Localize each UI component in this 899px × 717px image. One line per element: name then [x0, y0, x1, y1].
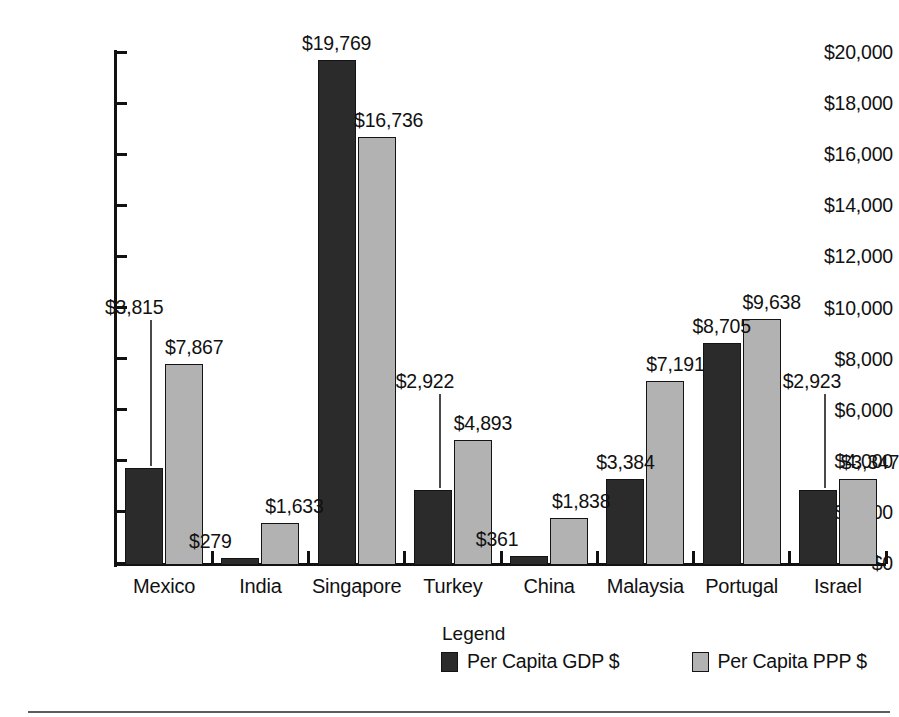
footer-divider: [28, 711, 890, 713]
legend-item-gdp[interactable]: Per Capita GDP $: [441, 650, 620, 673]
value-label-india-gdp: $279: [189, 530, 232, 553]
bar-china-ppp: [550, 518, 588, 565]
bar-malaysia-gdp: [606, 479, 644, 565]
value-label-india-ppp: $1,633: [265, 495, 323, 518]
value-label-turkey-ppp: $4,893: [454, 412, 512, 435]
bar-israel-ppp: [839, 479, 877, 565]
value-label-mexico-gdp: $3,815: [105, 296, 163, 319]
bar-china-gdp: [510, 556, 548, 565]
value-label-israel-gdp: $2,923: [783, 370, 841, 393]
bar-turkey-gdp: [414, 490, 452, 565]
value-label-malaysia-gdp: $3,384: [596, 451, 654, 474]
legend-swatch-icon: [441, 652, 458, 672]
bar-mexico-gdp: [125, 468, 163, 565]
value-label-malaysia-ppp: $7,191: [646, 353, 704, 376]
value-label-portugal-ppp: $9,638: [742, 291, 800, 314]
value-label-china-gdp: $361: [476, 528, 519, 551]
category-label-israel: Israel: [814, 575, 862, 598]
value-label-singapore-ppp: $16,736: [354, 109, 423, 132]
legend-item-ppp[interactable]: Per Capita PPP $: [692, 650, 867, 673]
value-label-mexico-ppp: $7,867: [165, 336, 223, 359]
value-label-portugal-gdp: $8,705: [692, 315, 750, 338]
legend-label: Per Capita PPP $: [718, 650, 867, 673]
label-leader-line: [439, 394, 441, 488]
category-label-turkey: Turkey: [423, 575, 482, 598]
bar-portugal-ppp: [743, 319, 781, 565]
legend-label: Per Capita GDP $: [467, 650, 620, 673]
value-label-singapore-gdp: $19,769: [302, 32, 371, 55]
category-label-india: India: [239, 575, 281, 598]
category-label-singapore: Singapore: [312, 575, 401, 598]
value-label-china-ppp: $1,838: [552, 490, 610, 513]
value-label-israel-ppp: $3,347: [841, 451, 899, 474]
bar-israel-gdp: [799, 490, 837, 565]
category-label-portugal: Portugal: [705, 575, 778, 598]
chart-legend: Per Capita GDP $Per Capita PPP $: [441, 650, 867, 673]
value-label-turkey-gdp: $2,922: [396, 370, 454, 393]
legend-swatch-icon: [692, 652, 709, 672]
bar-india-ppp: [261, 523, 299, 565]
legend-title: Legend: [442, 623, 505, 645]
bar-portugal-gdp: [703, 343, 741, 565]
category-label-mexico: Mexico: [133, 575, 195, 598]
category-label-malaysia: Malaysia: [607, 575, 684, 598]
label-leader-line: [150, 320, 152, 466]
label-leader-line: [824, 394, 826, 488]
bar-india-gdp: [221, 558, 259, 565]
category-label-china: China: [523, 575, 574, 598]
bar-singapore-ppp: [358, 137, 396, 565]
bar-singapore-gdp: [318, 60, 356, 565]
